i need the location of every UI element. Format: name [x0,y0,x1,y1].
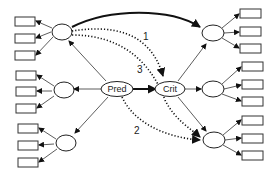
right-factor-bottom [203,132,225,148]
right-factor-top [202,25,224,41]
left-factor-middle [54,82,74,98]
path-label-1: 1 [143,31,149,42]
left-factor-bottom [56,135,76,151]
right-indicators [240,9,263,160]
right-loadings [222,14,241,155]
left-factor-top [52,24,72,40]
pred-label: Pred [107,84,126,94]
top-structural-path [72,13,200,27]
right-factor-middle [202,81,224,97]
sem-diagram: Pred Crit 1 2 3 [0,0,276,178]
left-indicators [15,17,38,167]
path-label-3: 3 [137,64,143,75]
path-label-2: 2 [134,125,140,136]
crit-label: Crit [163,84,177,94]
